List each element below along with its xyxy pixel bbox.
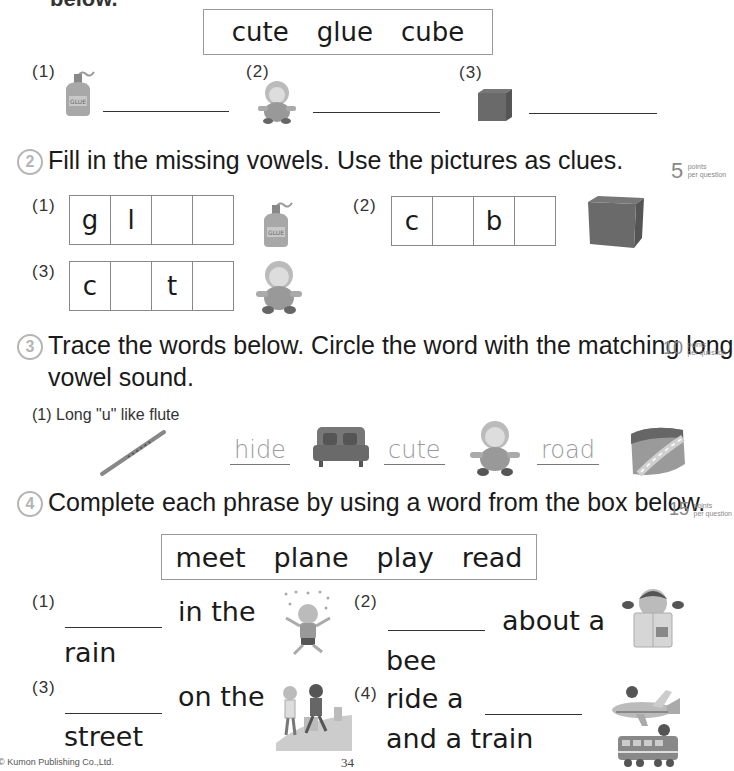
trace-word-cute[interactable]: cute [384,436,445,465]
word-option: play [377,542,434,573]
cube-icon [474,87,516,123]
section-number-badge: 3 [17,334,43,360]
phrase-text: ride a [386,683,463,714]
letter-cell: c [70,262,111,310]
plane-and-train-icon [606,684,686,770]
letter-cell-blank[interactable] [193,262,233,310]
item-number: (4) [354,684,378,704]
item-number: (2) [246,62,270,82]
word-option: cute [232,17,289,47]
answer-blank[interactable] [313,112,440,113]
letter-cells: g l [69,195,234,245]
letter-cell: l [111,196,152,244]
letter-cell-blank[interactable] [193,196,233,244]
phrase-text: about a [502,605,605,636]
answer-blank[interactable] [65,713,162,714]
glue-bottle-icon: GLUE [60,62,100,118]
item-number: (1) [32,62,56,82]
letter-cell-blank[interactable] [111,262,152,310]
phrase-text: street [64,721,143,752]
answer-blank[interactable] [485,714,582,715]
item-number: (2) [354,592,378,612]
two-boys-on-street-icon [276,683,352,751]
points-badge: 15 pointsper question [669,499,732,520]
section4-instruction: Complete each phrase by using a word fro… [48,488,705,517]
item-number: (3) [32,678,56,698]
points-badge: 10 pointsper question [663,338,726,359]
item-prompt: (1) Long "u" like flute [32,406,179,424]
phrase-text: bee [386,645,436,676]
baby-doll-icon [464,420,526,478]
phrase-text: rain [64,637,116,668]
letter-cell-blank[interactable] [152,196,193,244]
item-number: (1) [32,196,56,216]
phrase-text: on the [178,681,265,712]
svg-text:GLUE: GLUE [268,229,284,236]
item-number: (2) [353,196,377,216]
flute-icon [98,428,168,478]
item-number: (3) [459,63,483,83]
section3-instruction-line2: vowel sound. [48,363,194,392]
section-number-badge: 2 [17,149,43,175]
word-option: cube [401,17,464,47]
road-icon [625,424,687,478]
phrase-text: and a train [386,723,533,754]
letter-cell-blank[interactable] [515,197,555,245]
trace-word-road[interactable]: road [537,436,599,465]
page-number: 34 [341,755,354,771]
section3-instruction-line1: Trace the words below. Circle the word w… [48,331,734,360]
glue-bottle-icon: GLUE [258,193,298,249]
letter-cells: c b [391,196,556,246]
word-option: read [462,542,523,573]
cube-icon [584,194,646,250]
baby-doll-icon [252,80,302,124]
child-in-rain-icon [278,590,336,660]
answer-blank[interactable] [103,111,229,112]
word-option: plane [274,542,349,573]
trace-word-hide[interactable]: hide [230,436,290,465]
points-badge: 5 pointsper question [671,158,726,184]
word-box-section1: cute glue cube [203,9,493,55]
letter-cell: g [70,196,111,244]
header-fragment: below. [50,0,118,12]
answer-blank[interactable] [529,113,657,114]
section-number-badge: 4 [17,491,43,517]
svg-text:GLUE: GLUE [70,98,86,105]
answer-blank[interactable] [388,630,485,631]
phrase-text: in the [178,596,256,627]
copyright-notice: © Kumon Publishing Co.,Ltd. [0,757,114,767]
baby-doll-icon [250,260,308,316]
answer-blank[interactable] [65,627,162,628]
letter-cells: c t [69,261,234,311]
letter-cell: t [152,262,193,310]
couch-icon [311,425,371,469]
word-option: meet [175,542,245,573]
word-option: glue [317,17,373,47]
letter-cell: c [392,197,433,245]
letter-cell-blank[interactable] [433,197,474,245]
item-number: (1) [32,592,56,612]
section2-instruction: Fill in the missing vowels. Use the pict… [48,146,623,175]
word-box-section4: meet plane play read [161,534,537,580]
girl-reading-book-icon [620,585,686,651]
item-number: (3) [32,262,56,282]
letter-cell: b [474,197,515,245]
